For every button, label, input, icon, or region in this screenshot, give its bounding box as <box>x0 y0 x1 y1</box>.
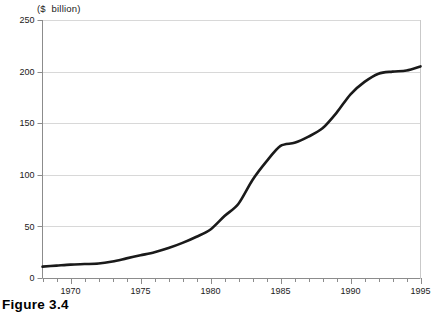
xtick-label-1970: 1970 <box>60 286 80 296</box>
chart-background <box>0 0 431 316</box>
figure-container: 050100150200250 197019751980198519901995… <box>0 0 431 316</box>
ytick-label-150: 150 <box>19 118 34 128</box>
xtick-label-1995: 1995 <box>410 286 430 296</box>
ytick-label-250: 250 <box>19 15 34 25</box>
line-chart: 050100150200250 197019751980198519901995 <box>0 0 431 316</box>
ytick-label-100: 100 <box>19 170 34 180</box>
ytick-label-50: 50 <box>24 222 34 232</box>
figure-caption: Figure 3.4 <box>2 297 69 312</box>
axis-unit-label: ($ billion) <box>37 3 81 14</box>
xtick-label-1975: 1975 <box>130 286 150 296</box>
ytick-label-0: 0 <box>29 273 34 283</box>
xtick-label-1985: 1985 <box>270 286 290 296</box>
xtick-label-1980: 1980 <box>200 286 220 296</box>
ytick-label-200: 200 <box>19 67 34 77</box>
xtick-label-1990: 1990 <box>340 286 360 296</box>
